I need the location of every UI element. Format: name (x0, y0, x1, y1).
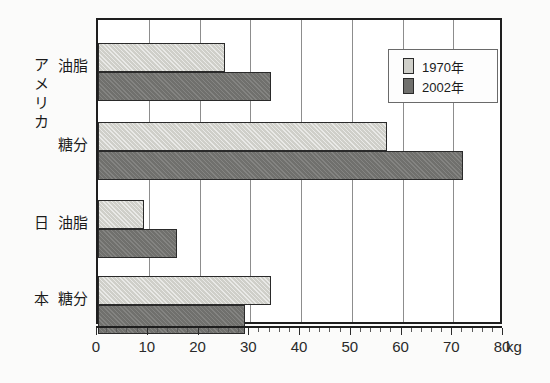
xtick-minor (380, 328, 381, 332)
bar-america-sugar-2002 (98, 151, 463, 180)
xtick-minor (461, 328, 462, 332)
xtick-major-10 (147, 328, 148, 335)
legend-label-1970: 1970年 (422, 57, 464, 76)
xtick-minor (208, 328, 209, 332)
xtick-minor (167, 328, 168, 332)
xtick-minor (431, 328, 432, 332)
america-char-2: メ (28, 74, 54, 93)
xtick-minor (421, 328, 422, 332)
bar-japan-sugar-2002 (98, 305, 245, 334)
xtick-major-40 (299, 328, 300, 335)
xtick-minor (137, 328, 138, 332)
plot-area: 1970年 2002年 (96, 18, 502, 324)
xtick-minor (177, 328, 178, 332)
japan-char-1: 日 (28, 213, 54, 232)
xtick-minor (360, 328, 361, 332)
xtick-major-70 (451, 328, 452, 335)
xtick-minor (492, 328, 493, 332)
bar-america-sugar-1970 (98, 122, 387, 151)
xtick-label-30: 30 (228, 338, 268, 355)
xtick-minor (411, 328, 412, 332)
chart-screenshot: 1970年 2002年 ア メ リ カ 油脂 糖分 日 本 油脂 糖分 (0, 0, 550, 383)
xtick-minor (279, 328, 280, 332)
xtick-minor (472, 328, 473, 332)
xtick-major-60 (401, 328, 402, 335)
xtick-minor (106, 328, 107, 332)
chart-legend: 1970年 2002年 (388, 49, 498, 103)
legend-swatch-2002-icon (403, 78, 414, 94)
america-char-1: ア (28, 55, 54, 74)
xtick-major-50 (350, 328, 351, 335)
row-label-america-sugar: 糖分 (58, 136, 104, 153)
bar-japan-fat-1970 (98, 200, 144, 229)
xtick-major-0 (96, 328, 97, 335)
xtick-minor (289, 328, 290, 332)
xtick-label-10: 10 (127, 338, 167, 355)
xtick-minor (370, 328, 371, 332)
row-label-america-fat: 油脂 (58, 57, 104, 74)
xtick-label-60: 60 (381, 338, 421, 355)
bar-america-fat-1970 (98, 43, 225, 72)
legend-item-2002: 2002年 (403, 76, 497, 96)
xtick-minor (238, 328, 239, 332)
xtick-label-0: 0 (76, 338, 116, 355)
xtick-major-80 (502, 328, 503, 335)
xtick-minor (329, 328, 330, 332)
xtick-minor (309, 328, 310, 332)
xtick-minor (441, 328, 442, 332)
xtick-label-50: 50 (330, 338, 370, 355)
xtick-minor (187, 328, 188, 332)
japan-char-2: 本 (28, 289, 54, 308)
xtick-major-30 (248, 328, 249, 335)
legend-swatch-1970-icon (403, 58, 414, 74)
bar-japan-sugar-1970 (98, 276, 271, 305)
xtick-label-70: 70 (431, 338, 471, 355)
xtick-minor (258, 328, 259, 332)
xtick-minor (157, 328, 158, 332)
america-char-4: カ (28, 112, 54, 131)
row-label-japan-fat: 油脂 (58, 214, 104, 231)
america-char-3: リ (28, 93, 54, 112)
xtick-minor (228, 328, 229, 332)
xtick-minor (218, 328, 219, 332)
xtick-minor (482, 328, 483, 332)
xtick-minor (390, 328, 391, 332)
group-label-japan: 日 本 (28, 213, 54, 232)
legend-item-1970: 1970年 (403, 56, 497, 76)
xtick-minor (126, 328, 127, 332)
row-label-japan-sugar: 糖分 (58, 290, 104, 307)
xtick-minor (269, 328, 270, 332)
xtick-minor (116, 328, 117, 332)
xtick-minor (319, 328, 320, 332)
xtick-label-20: 20 (178, 338, 218, 355)
bar-america-fat-2002 (98, 72, 271, 101)
legend-label-2002: 2002年 (422, 77, 464, 96)
xtick-major-20 (198, 328, 199, 335)
xtick-label-40: 40 (279, 338, 319, 355)
x-axis-unit-label: kg (506, 338, 522, 355)
xtick-minor (340, 328, 341, 332)
group-label-america: ア メ リ カ (28, 55, 54, 131)
bar-japan-fat-2002 (98, 229, 177, 258)
